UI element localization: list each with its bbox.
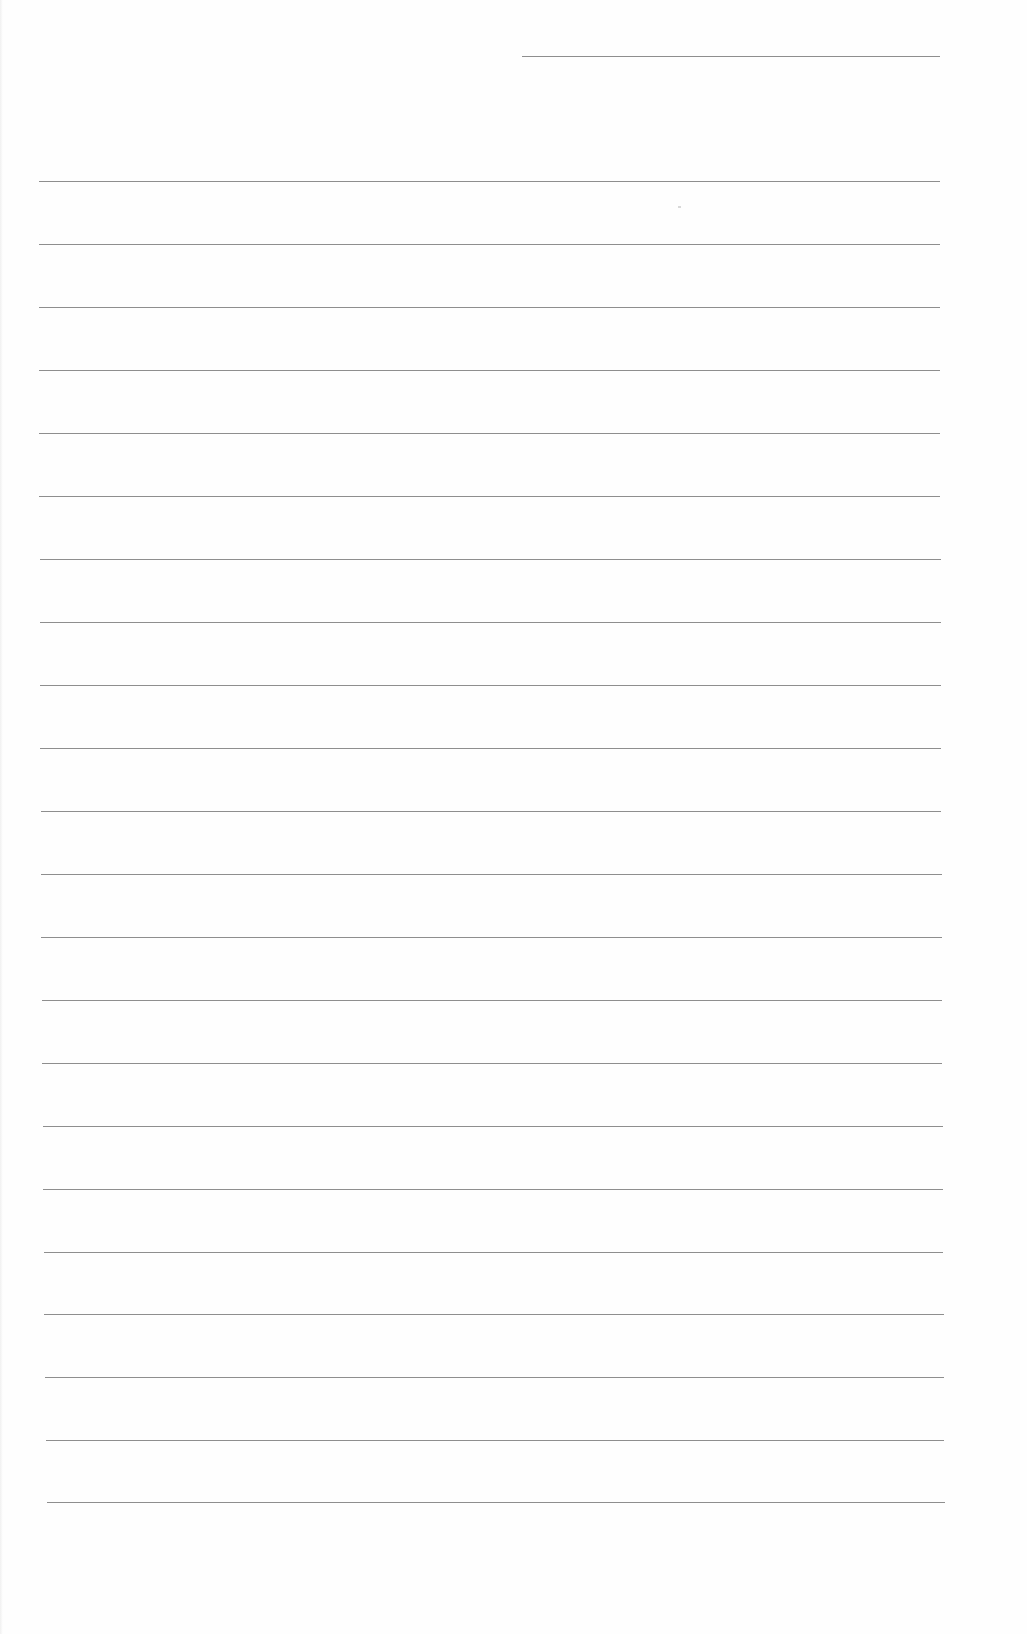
page-left-edge — [0, 0, 3, 1634]
ruled-line — [41, 874, 942, 875]
ruled-line — [46, 1440, 944, 1441]
lined-paper-page — [0, 0, 1027, 1634]
header-rule-line — [522, 56, 940, 57]
ruled-line — [43, 1126, 943, 1127]
ruled-line — [41, 811, 941, 812]
ruled-line — [44, 1252, 943, 1253]
ruled-line — [42, 1000, 942, 1001]
ruled-line — [47, 1502, 945, 1503]
ruled-line — [39, 433, 940, 434]
ruled-line — [42, 1063, 942, 1064]
ruled-line — [39, 496, 940, 497]
ruled-line — [39, 244, 940, 245]
ruled-line — [40, 559, 941, 560]
ruled-line — [45, 1377, 944, 1378]
ruled-line — [39, 307, 940, 308]
paper-speck — [678, 206, 681, 208]
ruled-line — [44, 1314, 944, 1315]
ruled-line — [40, 622, 941, 623]
ruled-line — [39, 181, 940, 182]
ruled-line — [40, 748, 941, 749]
ruled-line — [43, 1189, 943, 1190]
ruled-line — [41, 937, 942, 938]
ruled-line — [39, 370, 940, 371]
ruled-line — [40, 685, 941, 686]
